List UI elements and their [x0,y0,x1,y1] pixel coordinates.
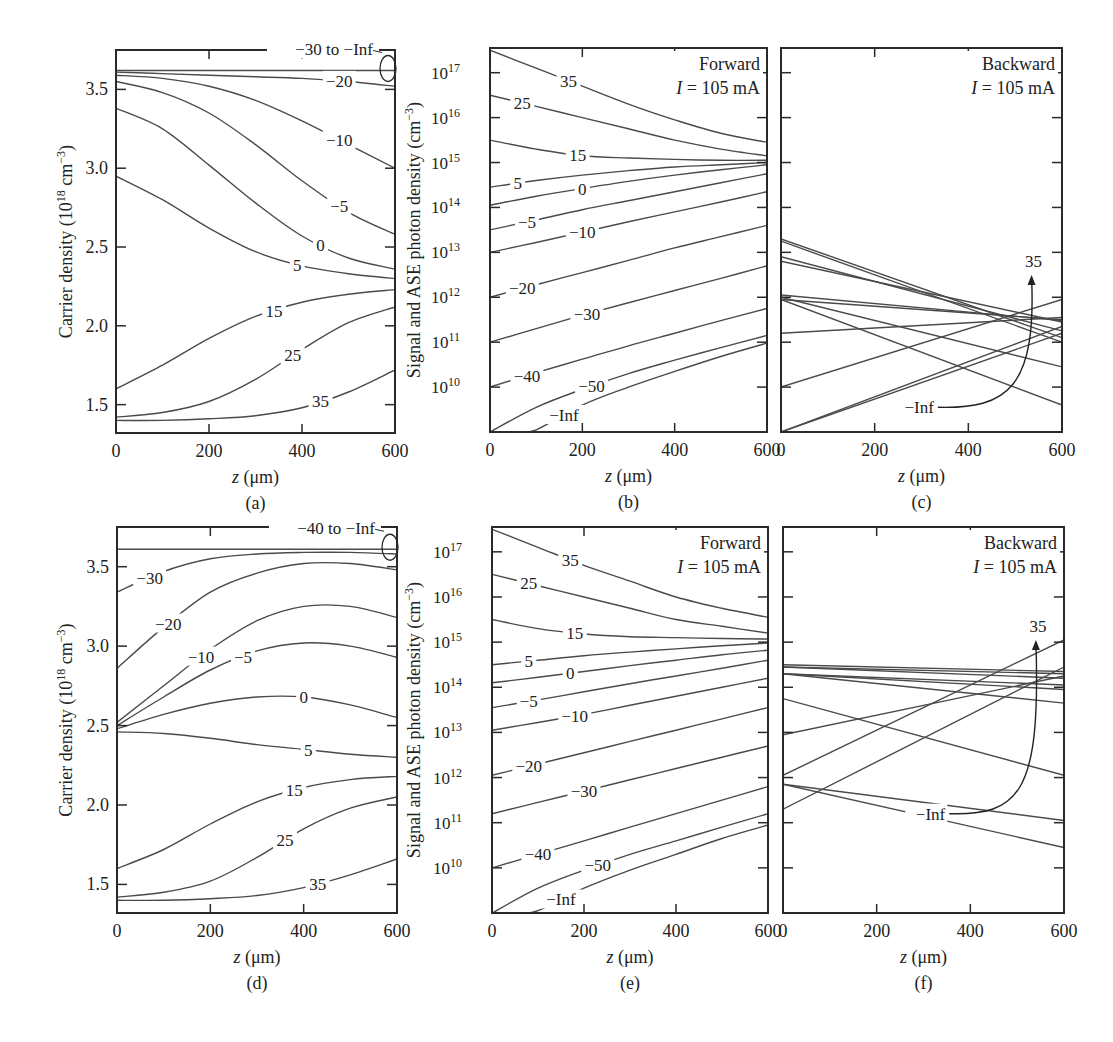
x-tick-label: 0 [777,440,786,460]
panel-a: −20−10−50515253502004006001.52.02.53.03.… [54,38,409,514]
curve-label: 0 [299,688,308,707]
curve-40 [781,241,1062,342]
y-tick-label: 1.5 [86,395,109,415]
curve-label: −30 [571,782,598,801]
x-tick-label: 600 [382,441,409,461]
arrow-head-icon [1028,275,1036,285]
panel-label: (c) [912,492,932,513]
curve-label: −20 [155,615,182,634]
svg-text:1013: 1013 [433,720,462,742]
y-tick-label: 3.5 [86,79,109,99]
svg-text:1010: 1010 [431,375,460,397]
curve-30 [781,239,1062,338]
y-axis-label: Carrier density (1018 cm−3) [54,145,77,338]
panel-subtitle: I = 105 mA [970,78,1055,98]
y-tick-label: 2.5 [86,237,109,257]
x-axis-label: z (μm) [604,466,652,487]
curve-label: −5 [520,692,538,711]
curve-5 [490,163,767,188]
x-tick-label: 200 [571,921,598,941]
x-tick-label: 200 [196,441,223,461]
y-axis-label: Carrier density (1018 cm−3) [54,623,77,816]
panel-label: (f) [915,973,933,994]
panel-label: (b) [618,492,639,513]
arrow-start-label: −Inf [916,805,946,824]
svg-text:1017: 1017 [433,540,462,562]
curve-35 [783,640,1064,775]
curve-label: −5 [234,648,252,667]
curve-label: −50 [578,377,605,396]
x-tick-label: 600 [1049,440,1076,460]
x-tick-label: 400 [661,440,688,460]
x-tick-label: 600 [1051,921,1078,941]
panel-subtitle: I = 105 mA [676,557,761,577]
curve-5 [117,732,397,757]
x-tick-label: 0 [779,921,788,941]
curve-label: −10 [188,648,215,667]
curve-15 [116,290,395,389]
curve-label: 0 [566,664,575,683]
curve-25 [116,307,395,417]
x-tick-label: 600 [384,921,411,941]
curve-label: 25 [520,574,537,593]
curve-label: 5 [304,741,313,760]
x-tick-label: 200 [569,440,596,460]
panel-e: 35251550−5−10−20−30−40−50−Inf02004006001… [402,527,782,994]
curve-15 [117,776,397,868]
x-tick-label: 0 [113,921,122,941]
x-axis-label: z (μm) [897,466,945,487]
curve-5 [117,643,397,726]
panel-title: Forward [700,533,761,553]
y-tick-label: 2.5 [87,716,110,736]
svg-text:1012: 1012 [431,285,460,307]
curve-label: −20 [509,279,536,298]
arrow-end-label: 35 [1029,617,1046,636]
svg-text:1015: 1015 [431,151,460,173]
curve-label: −10 [562,707,589,726]
curve-label: −40 [514,367,541,386]
curve-5 [116,176,395,278]
panel-d: −30−20−10−50515253502004006001.52.02.53.… [54,517,411,994]
series-group: −30−20−10−505152535 [117,549,397,900]
curve-label: 15 [566,624,583,643]
x-tick-label: 200 [863,921,890,941]
group-ellipse [380,55,396,81]
svg-text:1014: 1014 [433,675,462,697]
curve-40 [783,699,1064,776]
svg-text:1010: 1010 [433,856,462,878]
panel-label: (e) [620,973,640,994]
curve-label: 15 [266,302,283,321]
curve-15 [492,620,768,640]
curve-label: 0 [316,236,325,255]
panel-title: Backward [984,533,1057,553]
curve-label: 25 [514,94,531,113]
curve-label: 35 [312,392,329,411]
plot-frame [116,50,395,433]
x-tick-label: 400 [955,440,982,460]
curve-35 [117,859,397,900]
curve-label: −30 [136,569,163,588]
sweep-arrow [949,642,1036,814]
curve-0 [117,696,397,729]
curve-label: 35 [309,875,326,894]
curve-30 [492,746,768,814]
x-axis-label: z (μm) [232,947,280,968]
series-group: 35251550−5−10−20−30−40−50−Inf [490,50,767,432]
x-axis-label: z (μm) [231,467,279,488]
x-tick-label: 400 [289,441,316,461]
panel-label: (d) [247,973,268,994]
x-axis-label: z (μm) [899,947,947,968]
x-tick-label: 200 [197,921,224,941]
panel-title: Backward [982,54,1055,74]
curve-Inf [781,300,1062,406]
panel-title: Forward [699,54,760,74]
y-axis-label: Signal and ASE photon density (cm−3) [402,582,425,858]
group-annotation: −30 to −Inf [295,40,373,59]
curve-label: −Inf [546,890,576,909]
y-tick-label: 2.0 [87,795,110,815]
group-ellipse [382,534,398,560]
svg-text:1016: 1016 [431,106,460,128]
svg-text:1011: 1011 [433,811,462,833]
curve-label: −Inf [549,406,579,425]
x-tick-label: 0 [486,440,495,460]
